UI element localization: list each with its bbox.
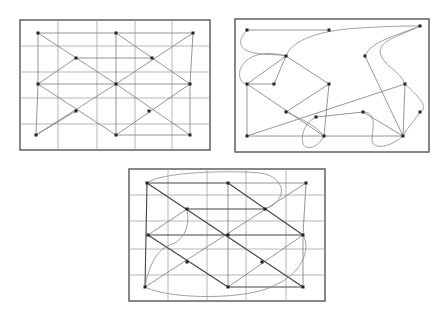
graph-node	[148, 110, 151, 113]
graph-node	[315, 116, 318, 119]
graph-node	[328, 29, 331, 32]
graph-node	[302, 234, 305, 237]
graph-node	[227, 286, 230, 289]
graph-node	[144, 286, 147, 289]
graph-node	[364, 55, 367, 58]
graph-node	[115, 83, 118, 86]
panel-top-left-lattice	[20, 20, 210, 150]
panel-top-right-curved-route	[235, 19, 429, 152]
graph-node	[189, 83, 192, 86]
panel-bottom-lattice-with-curves	[129, 169, 325, 301]
graph-node	[323, 135, 326, 138]
graph-node	[227, 182, 230, 185]
graph-node	[192, 32, 195, 35]
graph-node	[402, 135, 405, 138]
graph-node	[35, 134, 38, 137]
graph-node	[75, 110, 78, 113]
graph-node	[328, 83, 331, 86]
graph-node	[419, 111, 422, 114]
graph-node	[404, 83, 407, 86]
graph-node	[246, 83, 249, 86]
diagram-canvas	[0, 0, 446, 314]
graph-node	[246, 135, 249, 138]
graph-node	[264, 208, 267, 211]
graph-node	[305, 182, 308, 185]
graph-node	[75, 57, 78, 60]
graph-node	[246, 29, 249, 32]
graph-node	[186, 261, 189, 264]
graph-node	[115, 134, 118, 137]
graph-node	[285, 111, 288, 114]
graph-node	[186, 208, 189, 211]
graph-node	[146, 182, 149, 185]
graph-node	[273, 83, 276, 86]
graph-node	[151, 57, 154, 60]
graph-node	[419, 25, 422, 28]
graph-node	[362, 111, 365, 114]
graph-node	[115, 32, 118, 35]
graph-node	[285, 55, 288, 58]
graph-node	[37, 83, 40, 86]
graph-node	[189, 134, 192, 137]
graph-node	[302, 286, 305, 289]
graph-node	[227, 234, 230, 237]
graph-node	[37, 32, 40, 35]
graph-node	[261, 261, 264, 264]
graph-node	[147, 234, 150, 237]
